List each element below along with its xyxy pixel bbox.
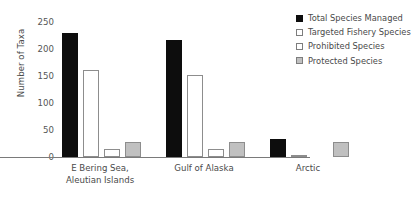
y-tick-100: 100 [28,98,54,108]
legend-item-targeted-fishery-species: Targeted Fishery Species [296,25,418,39]
y-axis-title: Number of Taxa [16,8,26,118]
bar-targeted-fishery-species-arctic [291,155,307,157]
x-label-arctic: Arctic [256,163,360,175]
bar-group-e-bering-sea [62,22,146,157]
bar-total-species-managed-arctic [270,139,286,157]
legend-item-total-species-managed: Total Species Managed [296,11,418,25]
legend-label-total-species-managed: Total Species Managed [308,13,403,23]
y-tick-50: 50 [28,125,54,135]
bar-total-species-managed-gulf-of-alaska [166,40,182,157]
y-tick-200: 200 [28,44,54,54]
bar-chart: Number of Taxa 0 50 100 150 200 250 [0,0,418,202]
legend-label-protected-species: Protected Species [308,56,382,66]
bar-total-species-managed-e-bering-sea [62,33,78,157]
bar-prohibited-species-gulf-of-alaska [208,149,224,157]
x-label-gulf-of-alaska: Gulf of Alaska [152,163,256,175]
bar-protected-species-gulf-of-alaska [229,142,245,157]
y-tick-150: 150 [28,71,54,81]
legend-swatch-open-square-icon [296,29,303,36]
bar-targeted-fishery-species-gulf-of-alaska [187,75,203,157]
chart-legend: Total Species Managed Targeted Fishery S… [296,11,418,68]
legend-label-targeted-fishery-species: Targeted Fishery Species [308,27,411,37]
plot-area [58,22,280,157]
legend-item-protected-species: Protected Species [296,54,418,68]
legend-swatch-open-square-icon-2 [296,43,303,50]
legend-swatch-filled-gray-square-icon [296,57,303,64]
bar-targeted-fishery-species-e-bering-sea [83,70,99,157]
bar-protected-species-arctic [333,142,349,157]
y-tick-250: 250 [28,17,54,27]
x-label-e-bering-sea: E Bering Sea, Aleutian Islands [48,163,152,186]
bar-group-gulf-of-alaska [166,22,250,157]
legend-item-prohibited-species: Prohibited Species [296,39,418,53]
bar-prohibited-species-e-bering-sea [104,149,120,157]
legend-label-prohibited-species: Prohibited Species [308,41,385,51]
legend-swatch-filled-black-square-icon [296,15,303,22]
bar-protected-species-e-bering-sea [125,142,141,157]
x-axis-baseline [0,157,310,158]
